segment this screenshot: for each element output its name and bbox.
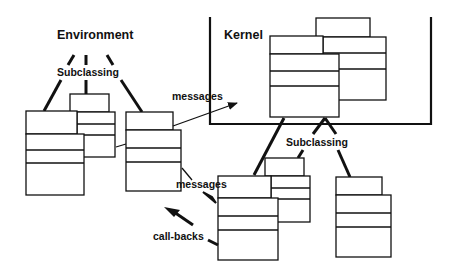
messages-arrow-top [173, 103, 237, 126]
callbacks-arrow-shaft [174, 212, 193, 225]
callbacks-line-end [208, 240, 218, 245]
messages-label-top: messages [172, 90, 223, 102]
messages-label-bottom: messages [176, 178, 227, 190]
environment-subclassing-label: Subclassing [57, 66, 119, 78]
callbacks-label: call-backs [153, 230, 204, 242]
kernel-subclass-left [218, 176, 278, 260]
kernel-subclassing-label: Subclassing [286, 136, 348, 148]
architecture-diagram: Environment Kernel Subclassing messages [0, 0, 453, 274]
connector-line [116, 144, 126, 147]
env-class-left [26, 111, 84, 195]
kernel-title: Kernel [224, 28, 263, 42]
messages-arrow-bottom [203, 192, 216, 203]
kernel-subclass-right [336, 177, 391, 257]
environment-title: Environment [57, 28, 134, 42]
env-class-right [126, 112, 181, 191]
